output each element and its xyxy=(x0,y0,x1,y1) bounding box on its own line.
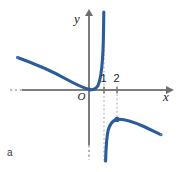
origin-label: O xyxy=(78,90,86,102)
graph-svg: y x O 1 2 a xyxy=(0,0,180,172)
tangency-point xyxy=(88,88,92,92)
local-maximum-point xyxy=(114,117,119,122)
graph-figure: y x O 1 2 a xyxy=(0,0,180,172)
x-tick-label-1: 1 xyxy=(101,72,107,84)
curve-left-end-fade xyxy=(16,56,18,58)
panel-label: a xyxy=(7,147,13,158)
x-axis-label: x xyxy=(162,89,169,104)
x-tick-label-2: 2 xyxy=(114,72,120,84)
curve-right-end-fade xyxy=(160,134,162,136)
y-axis-label: y xyxy=(72,11,80,26)
